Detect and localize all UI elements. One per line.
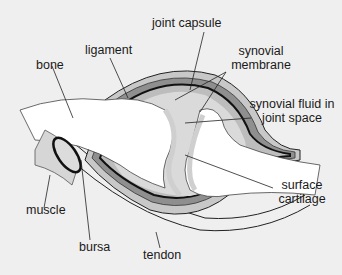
label-synovial-fluid: synovial fluid in joint space (241, 97, 342, 125)
label-tendon: tendon (143, 248, 181, 262)
label-bursa: bursa (79, 240, 110, 254)
label-synovial-membrane: synovial membrane (216, 44, 306, 72)
synovial-joint-diagram: bone ligament joint capsule synovial mem… (0, 0, 342, 275)
label-ligament: ligament (85, 43, 132, 57)
joint-illustration (0, 0, 342, 275)
label-joint-capsule: joint capsule (152, 16, 222, 30)
label-bone: bone (36, 58, 64, 72)
label-surface-cartilage: surface cartilage (272, 178, 332, 206)
label-muscle: muscle (26, 203, 66, 217)
